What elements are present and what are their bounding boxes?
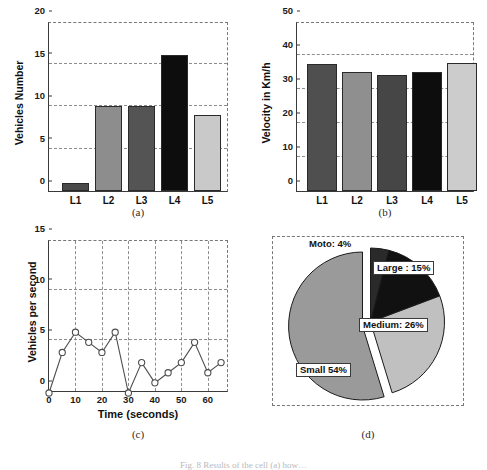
panel-d-plot-area: Moto: 4% Large : 15% Medium: 26% Small 5… [272, 236, 464, 406]
panel-c: Vehicles per second 0 5 10 15 0 10 20 30… [0, 228, 244, 470]
panel-a-ytick-0: 0 [40, 175, 49, 186]
panel-a-ylabel: Vehicles Number [12, 48, 26, 158]
bar-l5[interactable] [194, 115, 221, 192]
panel-a-xtick-l2: L2 [103, 191, 115, 206]
panel-c-xtick-60: 60 [203, 391, 214, 405]
panel-b-ylabel: Velocity in Km/h [259, 48, 273, 158]
panel-b-xtick-l2: L2 [351, 191, 363, 206]
panel-b-xtick-l1: L1 [316, 191, 328, 206]
panel-a-ytick-5: 5 [40, 132, 49, 143]
panel-a-xtick-l3: L3 [136, 191, 148, 206]
panel-a: Vehicles Number 0 5 10 15 20 L1 L2 L3 L4… [0, 0, 244, 222]
panel-c-ytick-15: 15 [34, 223, 49, 234]
panel-b-xtick-l5: L5 [456, 191, 468, 206]
panel-b-ytick-0: 0 [288, 175, 297, 186]
panel-c-series [49, 241, 229, 393]
panel-c-ylabel: Vehicles per second [25, 247, 39, 377]
panel-a-ytick-20: 20 [34, 5, 49, 16]
panel-a-plot-area: 0 5 10 15 20 L1 L2 L3 L4 L5 [48, 22, 228, 192]
pie-label-moto: Moto: 4% [309, 239, 351, 249]
panel-b-xtick-l4: L4 [421, 191, 433, 206]
panel-c-xtick-40: 40 [150, 391, 161, 405]
panel-a-caption: (a) [48, 206, 228, 218]
panel-b-plot-area: 0 10 20 30 40 50 L1 L2 L3 L4 L5 [296, 22, 474, 192]
panel-c-plot-area: 0 5 10 15 0 10 20 30 40 50 60 [48, 240, 228, 392]
panel-c-xtick-50: 50 [176, 391, 187, 405]
panel-a-xtick-l1: L1 [70, 191, 82, 206]
figure-container: Vehicles Number 0 5 10 15 20 L1 L2 L3 L4… [0, 0, 487, 470]
panel-c-caption: (c) [48, 428, 228, 440]
gridline-y-40 [297, 54, 473, 55]
panel-a-xtick-l5: L5 [202, 191, 214, 206]
panel-b-ytick-50: 50 [282, 5, 297, 16]
panel-b-ytick-10: 10 [282, 141, 297, 152]
panel-b-caption: (b) [296, 206, 474, 218]
panel-c-xtick-20: 20 [97, 391, 108, 405]
panel-c-xtick-10: 10 [70, 391, 81, 405]
bar-l2[interactable] [95, 106, 122, 191]
figure-caption: Fig. 8 Results of the cell (a) how… [0, 460, 487, 470]
panel-d-caption: (d) [272, 428, 464, 440]
panel-a-xtick-l4: L4 [169, 191, 181, 206]
bar-l2[interactable] [342, 72, 372, 191]
panel-c-ytick-10: 10 [34, 273, 49, 284]
pie-label-medium: Medium: 26% [359, 318, 428, 332]
panel-b-ytick-40: 40 [282, 39, 297, 50]
panel-b: Velocity in Km/h 0 10 20 30 40 50 L1 L2 … [244, 0, 487, 222]
bar-l4[interactable] [161, 55, 188, 191]
panel-d: Moto: 4% Large : 15% Medium: 26% Small 5… [244, 228, 487, 470]
bar-l4[interactable] [412, 72, 442, 191]
bar-l3[interactable] [128, 106, 155, 191]
panel-c-ytick-5: 5 [40, 324, 49, 335]
gridline-y-15 [49, 63, 227, 64]
pie-label-large: Large : 15% [373, 261, 434, 275]
panel-b-xtick-l3: L3 [386, 191, 398, 206]
panel-a-ytick-10: 10 [34, 90, 49, 101]
bar-l1[interactable] [307, 64, 337, 192]
panel-b-ytick-30: 30 [282, 73, 297, 84]
panel-c-ytick-0: 0 [40, 375, 49, 386]
pie-label-small: Small 54% [296, 363, 351, 377]
panel-a-ytick-15: 15 [34, 47, 49, 58]
series-markers [46, 329, 224, 396]
bar-l5[interactable] [447, 63, 477, 191]
panel-c-xlabel: Time (seconds) [48, 408, 228, 420]
bar-l1[interactable] [62, 183, 89, 192]
bar-l3[interactable] [377, 75, 407, 191]
panel-b-ytick-20: 20 [282, 107, 297, 118]
